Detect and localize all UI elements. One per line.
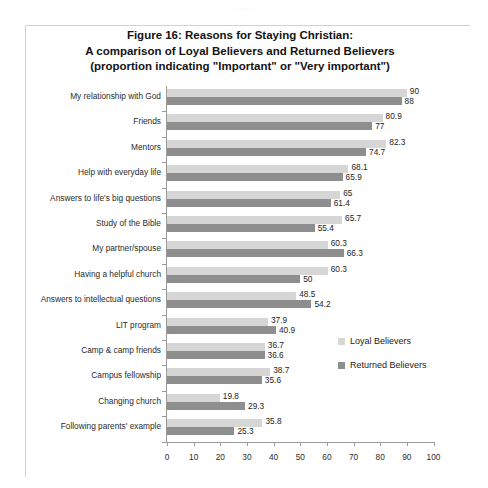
x-axis-tick (300, 442, 301, 446)
y-axis-tick (162, 162, 166, 163)
bar-group: 35.825.3 (167, 416, 434, 441)
x-axis-tick-label: 0 (152, 452, 182, 462)
bar-group: 6561.4 (167, 188, 434, 213)
x-axis-tick-label: 80 (365, 452, 395, 462)
bar-group: 19.829.3 (167, 391, 434, 416)
legend-item-loyal-believers[interactable]: Loyal Believers (338, 336, 478, 346)
bar-loyal-believers[interactable] (167, 394, 220, 402)
chart-legend: Loyal Believers Returned Believers (338, 336, 478, 384)
bar-returned-believers[interactable] (167, 427, 234, 435)
legend-label-loyal: Loyal Believers (350, 336, 411, 346)
bar-loyal-believers[interactable] (167, 89, 407, 97)
chart-row: Friends80.977 (0, 111, 488, 136)
bar-group: 9088 (167, 86, 434, 111)
x-axis-tick-label: 40 (259, 452, 289, 462)
bar-returned-believers[interactable] (167, 300, 311, 308)
y-axis-tick (162, 213, 166, 214)
y-axis-tick (162, 315, 166, 316)
bar-value-label-returned: 74.7 (369, 148, 385, 157)
bar-returned-believers[interactable] (167, 249, 344, 257)
x-axis-tick-label: 10 (179, 452, 209, 462)
bar-value-label-returned: 55.4 (318, 224, 334, 233)
bar-returned-believers[interactable] (167, 376, 262, 384)
chart-row: Mentors82.374.7 (0, 137, 488, 162)
y-axis-tick (162, 137, 166, 138)
bar-returned-believers[interactable] (167, 148, 366, 156)
category-label: Answers to intellectual questions (11, 294, 166, 304)
bar-value-label-returned: 35.6 (265, 376, 281, 385)
bar-value-label-returned: 65.9 (346, 173, 362, 182)
bar-value-label-returned: 88 (405, 97, 414, 106)
bar-value-label-loyal: 38.7 (273, 366, 289, 375)
bar-returned-believers[interactable] (167, 97, 402, 105)
chart-row: Help with everyday life68.165.9 (0, 162, 488, 187)
bar-returned-believers[interactable] (167, 326, 276, 334)
bar-value-label-loyal: 68.1 (351, 163, 367, 172)
y-axis-tick (162, 264, 166, 265)
category-label: My relationship with God (11, 91, 166, 101)
y-axis-tick (162, 340, 166, 341)
bar-loyal-believers[interactable] (167, 292, 296, 300)
y-axis-tick (162, 188, 166, 189)
bar-loyal-believers[interactable] (167, 241, 328, 249)
bar-group: 60.350 (167, 264, 434, 289)
x-axis-tick (407, 442, 408, 446)
chart-row: Following parents' example35.825.3 (0, 416, 488, 441)
x-axis-tick-label: 20 (205, 452, 235, 462)
x-axis-tick (194, 442, 195, 446)
bar-returned-believers[interactable] (167, 122, 372, 130)
bar-value-label-returned: 54.2 (314, 300, 330, 309)
y-axis-tick (162, 365, 166, 366)
legend-swatch-icon-loyal (338, 338, 345, 345)
y-axis-tick (162, 416, 166, 417)
y-axis-tick (162, 391, 166, 392)
bar-returned-believers[interactable] (167, 275, 300, 283)
bar-value-label-loyal: 48.5 (299, 290, 315, 299)
bar-loyal-believers[interactable] (167, 114, 383, 122)
bar-chart-plot-area: My relationship with God9088Friends80.97… (0, 0, 488, 488)
x-axis-tick (327, 442, 328, 446)
chart-row: Having a helpful church60.350 (0, 264, 488, 289)
y-axis-tick (162, 238, 166, 239)
bar-returned-believers[interactable] (167, 402, 245, 410)
bar-group: 60.366.3 (167, 238, 434, 263)
bar-loyal-believers[interactable] (167, 368, 270, 376)
bar-loyal-believers[interactable] (167, 216, 342, 224)
x-axis-tick (247, 442, 248, 446)
legend-item-returned-believers[interactable]: Returned Believers (338, 360, 478, 370)
legend-label-returned: Returned Believers (350, 360, 427, 370)
x-axis-tick (354, 442, 355, 446)
bar-returned-believers[interactable] (167, 173, 343, 181)
chart-row: Answers to life's big questions6561.4 (0, 188, 488, 213)
bar-group: 65.755.4 (167, 213, 434, 238)
bar-returned-believers[interactable] (167, 351, 265, 359)
y-axis-tick (162, 442, 166, 443)
chart-row: Changing church19.829.3 (0, 391, 488, 416)
bar-returned-believers[interactable] (167, 224, 315, 232)
bar-value-label-returned: 50 (303, 275, 312, 284)
bar-loyal-believers[interactable] (167, 165, 348, 173)
category-label: Following parents' example (11, 421, 166, 431)
category-label: Changing church (11, 396, 166, 406)
x-axis-tick-label: 50 (285, 452, 315, 462)
chart-row: My partner/spouse60.366.3 (0, 238, 488, 263)
bar-value-label-loyal: 82.3 (389, 138, 405, 147)
bar-loyal-believers[interactable] (167, 318, 268, 326)
bar-value-label-loyal: 37.9 (271, 316, 287, 325)
bar-loyal-believers[interactable] (167, 140, 386, 148)
x-axis-tick-label: 70 (339, 452, 369, 462)
category-label: Answers to life's big questions (11, 193, 166, 203)
chart-row: Answers to intellectual questions48.554.… (0, 289, 488, 314)
bar-returned-believers[interactable] (167, 199, 331, 207)
bar-value-label-loyal: 60.3 (331, 239, 347, 248)
legend-swatch-icon-returned (338, 362, 345, 369)
bar-loyal-believers[interactable] (167, 343, 265, 351)
bar-group: 68.165.9 (167, 162, 434, 187)
category-label: Mentors (11, 142, 166, 152)
category-label: Camp & camp friends (11, 345, 166, 355)
bar-loyal-believers[interactable] (167, 191, 340, 199)
bar-value-label-loyal: 90 (410, 87, 419, 96)
chart-row: Study of the Bible65.755.4 (0, 213, 488, 238)
category-label: My partner/spouse (11, 243, 166, 253)
category-label: Help with everyday life (11, 167, 166, 177)
